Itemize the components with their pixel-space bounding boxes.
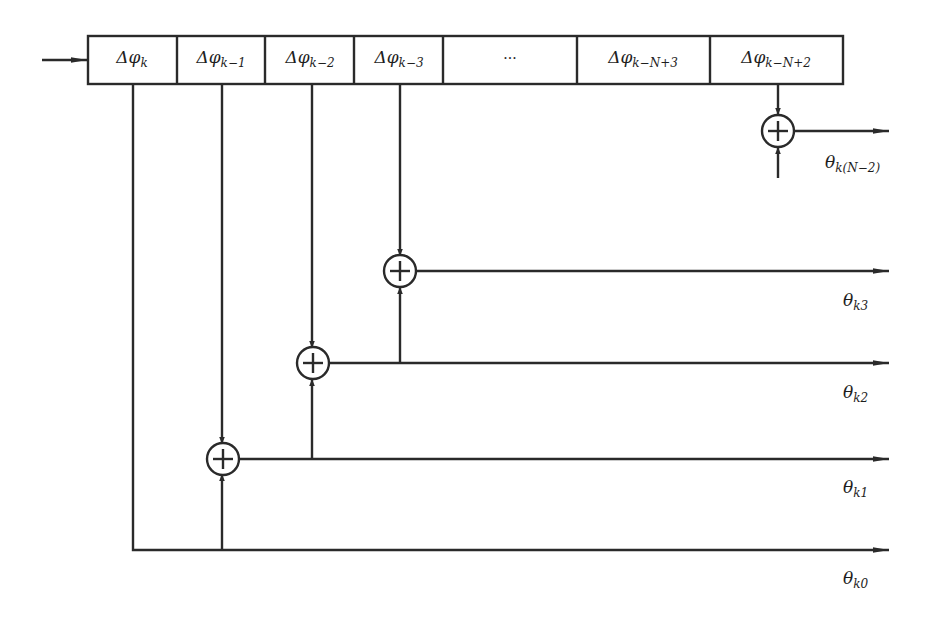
- cell-label-ellipsis: ···: [503, 50, 516, 66]
- adder-1: [207, 443, 239, 475]
- output-label-k3: θk3: [843, 290, 868, 313]
- cell-label-k-2: Δφk−2: [285, 47, 334, 70]
- adder-n2: [762, 115, 794, 147]
- output-label-k2: θk2: [843, 382, 868, 405]
- adder-2: [297, 347, 329, 379]
- diagram-canvas: [0, 0, 942, 619]
- adder-3: [384, 255, 416, 287]
- output-label-kn2: θk(N−2): [825, 152, 880, 175]
- cell-label-k-1: Δφk−1: [196, 47, 245, 70]
- tap-k: [133, 84, 889, 550]
- cell-label-k: Δφk: [116, 47, 147, 70]
- cell-label-k-n3: Δφk−N+3: [608, 47, 678, 70]
- cell-label-k-n2: Δφk−N+2: [741, 47, 811, 70]
- output-label-k1: θk1: [843, 477, 868, 500]
- cell-label-k-3: Δφk−3: [374, 47, 423, 70]
- output-label-k0: θk0: [843, 568, 868, 591]
